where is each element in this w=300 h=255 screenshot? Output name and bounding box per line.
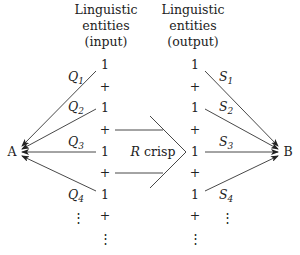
label-s1: S1	[219, 69, 233, 86]
input-ellipsis: ⋮	[99, 231, 112, 246]
input-header-line-1: Linguistic	[75, 2, 138, 17]
relation-label: Rcrisp	[130, 144, 176, 159]
output-entity: 1	[191, 100, 199, 115]
q-ellipsis: ⋮	[72, 210, 85, 225]
input-plus: +	[100, 79, 110, 94]
input-column: 1 + 1 + 1 + 1 + ⋮	[99, 57, 112, 246]
output-header: Linguistic entities (output)	[162, 2, 225, 49]
input-entity: 1	[101, 100, 109, 115]
output-arrows	[205, 71, 278, 191]
label-q3: Q3	[68, 134, 84, 151]
input-entity: 1	[101, 57, 109, 72]
input-arrows	[22, 71, 96, 191]
diagram-canvas: Linguistic entities (input) Linguistic e…	[0, 0, 300, 255]
input-plus: +	[100, 122, 110, 137]
label-q2: Q2	[68, 99, 84, 116]
label-q4: Q4	[68, 187, 84, 204]
output-plus: +	[190, 79, 200, 94]
output-header-line-2: entities	[169, 18, 216, 33]
node-a: A	[6, 144, 17, 159]
input-header-line-3: (input)	[85, 34, 128, 49]
output-column: 1 + 1 + 1 + 1 + ⋮	[189, 57, 202, 246]
s-ellipsis: ⋮	[221, 210, 234, 225]
label-s3: S3	[219, 134, 234, 151]
output-ellipsis: ⋮	[189, 231, 202, 246]
label-s4: S4	[219, 187, 234, 204]
output-plus: +	[190, 165, 200, 180]
input-entity: 1	[101, 187, 109, 202]
label-q1: Q1	[68, 69, 84, 86]
output-plus: +	[190, 208, 200, 223]
output-entity: 1	[191, 187, 199, 202]
output-entity: 1	[191, 144, 199, 159]
input-plus: +	[100, 165, 110, 180]
arrow-s4	[205, 156, 278, 191]
input-entity: 1	[101, 144, 109, 159]
label-s2: S2	[219, 99, 234, 116]
arrow-q1	[22, 71, 96, 146]
arrow-s2	[205, 109, 278, 149]
arrow-s1	[205, 71, 278, 146]
node-b: B	[283, 144, 292, 159]
arrow-q2	[22, 109, 96, 149]
input-arrow-labels: Q1 Q2 Q3 Q4 ⋮	[68, 69, 85, 225]
input-plus: +	[100, 208, 110, 223]
output-header-line-3: (output)	[167, 34, 218, 49]
output-header-line-1: Linguistic	[162, 2, 225, 17]
input-header: Linguistic entities (input)	[75, 2, 138, 49]
output-entity: 1	[191, 57, 199, 72]
input-header-line-2: entities	[82, 18, 129, 33]
arrow-q4	[22, 156, 96, 191]
output-plus: +	[190, 122, 200, 137]
